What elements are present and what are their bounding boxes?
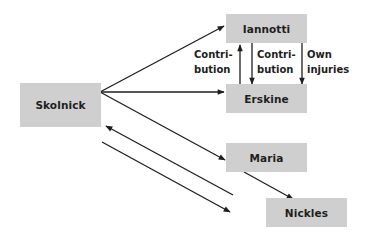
liability-diagram: Skolnick Iannotti Erskine Maria Nickles … xyxy=(0,0,367,238)
edge-label-line2: bution xyxy=(194,62,233,77)
node-iannotti: Iannotti xyxy=(226,14,307,43)
node-erskine: Erskine xyxy=(226,84,307,113)
edge-label-contribution-up: Contri- bution xyxy=(194,47,233,77)
edge-label-own-injuries: Own injuries xyxy=(307,47,349,77)
edge-label-line1: Contri- xyxy=(257,47,296,62)
edge-label-line1: Own xyxy=(307,47,349,62)
edge-label-line1: Contri- xyxy=(194,47,233,62)
edge-label-line2: bution xyxy=(257,62,296,77)
node-nickles: Nickles xyxy=(266,198,347,227)
node-maria-label: Maria xyxy=(250,152,284,164)
node-maria: Maria xyxy=(226,143,307,172)
node-nickles-label: Nickles xyxy=(285,207,328,219)
node-erskine-label: Erskine xyxy=(244,93,288,105)
node-skolnick: Skolnick xyxy=(20,83,101,127)
edge-label-contribution-down: Contri- bution xyxy=(257,47,296,77)
edge-skolnick-maria xyxy=(100,92,225,160)
edge-label-line2: injuries xyxy=(307,62,349,77)
node-skolnick-label: Skolnick xyxy=(35,99,85,111)
edge-nickles-skolnick xyxy=(106,126,233,195)
node-iannotti-label: Iannotti xyxy=(243,23,291,35)
edge-maria-nickles xyxy=(244,172,293,199)
